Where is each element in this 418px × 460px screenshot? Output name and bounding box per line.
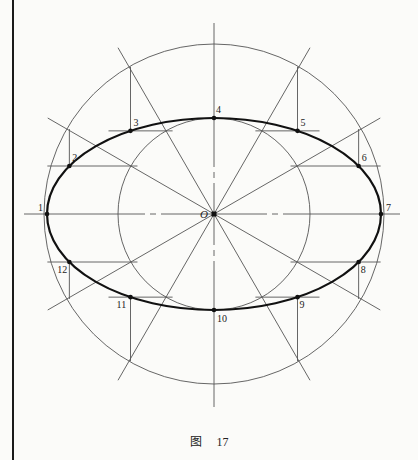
point-label-4: 4 <box>216 104 221 115</box>
figure-caption: 图 17 <box>0 432 418 450</box>
ellipse-construction-diagram: O123456789101112 <box>0 0 418 460</box>
point-label-11: 11 <box>117 299 127 310</box>
ellipse-point-12 <box>67 260 72 265</box>
point-label-2: 2 <box>72 152 77 163</box>
ellipse-point-6 <box>356 164 361 169</box>
point-label-1: 1 <box>38 202 43 213</box>
ellipse-point-5 <box>295 129 300 134</box>
ellipse-point-11 <box>128 295 133 300</box>
point-label-8: 8 <box>361 264 366 275</box>
ellipse-point-7 <box>379 212 384 217</box>
point-label-3: 3 <box>134 117 139 128</box>
point-label-5: 5 <box>301 117 306 128</box>
center-label: O <box>200 208 208 220</box>
ellipse-point-10 <box>212 308 217 313</box>
point-label-7: 7 <box>386 202 391 213</box>
caption-number: 17 <box>217 435 229 449</box>
point-label-9: 9 <box>300 299 305 310</box>
caption-prefix: 图 <box>190 435 202 449</box>
ellipse-point-1 <box>45 212 50 217</box>
point-label-6: 6 <box>362 152 367 163</box>
point-label-10: 10 <box>217 313 227 324</box>
point-label-12: 12 <box>57 264 67 275</box>
center-point <box>212 212 217 217</box>
ellipse-point-4 <box>212 116 217 121</box>
ellipse-point-2 <box>67 164 72 169</box>
ellipse-point-3 <box>128 129 133 134</box>
